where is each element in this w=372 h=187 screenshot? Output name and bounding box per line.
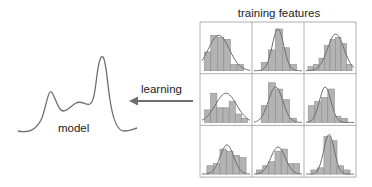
histogram-bar: [217, 108, 223, 123]
histogram-bar: [235, 114, 241, 122]
diagram-canvas: [0, 0, 372, 187]
feature-histogram-grid: [200, 22, 356, 177]
histogram-bar: [223, 108, 229, 123]
histogram-bar: [220, 149, 227, 174]
histogram-bar: [321, 97, 328, 122]
histogram-bar: [275, 89, 282, 122]
histogram-bar: [282, 48, 289, 71]
histogram-bar: [229, 102, 235, 123]
histogram-bar: [330, 39, 336, 70]
histogram-bar: [211, 35, 218, 70]
histogram-cell: [306, 34, 354, 71]
histogram-bar: [275, 151, 281, 174]
learning-arrow: [129, 97, 193, 106]
histogram-bar: [268, 50, 275, 71]
histogram-cell: [306, 135, 354, 175]
histogram-cell: [202, 35, 250, 70]
histogram-bar: [226, 151, 233, 174]
histogram-cell: [254, 29, 302, 71]
histogram-cell: [254, 83, 302, 123]
histogram-bar: [230, 64, 237, 70]
histogram-bar: [241, 118, 247, 122]
histogram-cell: [202, 93, 250, 122]
histogram-bar: [336, 37, 342, 70]
histogram-bar: [261, 106, 268, 123]
histogram-bar: [324, 137, 331, 175]
histogram-bar: [217, 37, 224, 70]
histogram-cell: [254, 147, 302, 174]
histogram-cell: [202, 145, 250, 174]
histogram-cell: [306, 87, 354, 122]
histogram-bar: [240, 157, 247, 174]
histogram-bar: [269, 162, 275, 175]
histogram-bar: [268, 83, 275, 123]
histogram-bar: [347, 64, 353, 70]
model-distribution-curve: [18, 57, 137, 132]
